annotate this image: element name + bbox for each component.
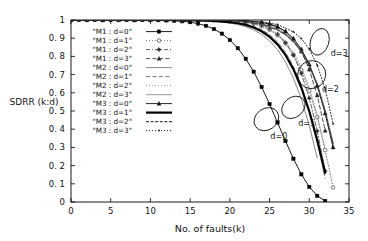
data-point-marker — [158, 130, 160, 132]
legend-label-7: "M2 : d=3" — [92, 90, 132, 99]
data-point-marker — [332, 123, 334, 125]
data-point-marker — [252, 70, 255, 73]
legend-label-8: "M3 : d=0" — [92, 99, 132, 108]
data-point-marker — [157, 39, 161, 43]
data-point-marker — [204, 24, 207, 27]
data-point-marker — [300, 173, 303, 176]
data-point-marker — [316, 64, 318, 66]
legend-label-3: "M1 : d=3" — [92, 54, 132, 63]
chart-figure: 0510152025303500. 10. 20. 30. 40. 50. 60… — [0, 0, 368, 241]
legend-label-6: "M2 : d=2" — [92, 81, 132, 90]
x-tick-label: 5 — [108, 206, 113, 216]
data-point-marker — [212, 27, 215, 30]
x-tick-label: 0 — [68, 206, 73, 216]
data-point-marker — [220, 32, 223, 35]
y-axis-label: SDRR (k:d) — [10, 97, 59, 107]
data-point-marker — [315, 93, 319, 97]
annotation-ellipse-d=3 — [307, 26, 333, 58]
y-tick-label: 0. 4 — [49, 124, 65, 134]
data-point-marker — [292, 31, 294, 33]
data-point-marker — [228, 38, 231, 41]
data-point-marker — [229, 19, 231, 21]
data-point-marker — [261, 21, 263, 23]
data-point-marker — [331, 186, 335, 190]
y-tick-label: 0. 8 — [49, 51, 65, 61]
data-point-marker — [323, 148, 327, 152]
x-tick-label: 15 — [185, 206, 196, 216]
y-tick-label: 0 — [60, 197, 65, 207]
y-tick-label: 0. 1 — [49, 179, 65, 189]
data-point-marker — [307, 96, 311, 100]
legend-label-0: "M1 : d=0" — [92, 27, 132, 36]
legend-label-9: "M3 : d=1" — [92, 108, 132, 117]
data-point-marker — [157, 30, 160, 33]
annotation-label-d=1: d=1 — [298, 119, 315, 128]
legend-label-2: "M1 : d=2" — [92, 45, 132, 54]
x-tick-label: 20 — [224, 206, 235, 216]
y-tick-label: 0. 5 — [49, 106, 65, 116]
legend-label-1: "M1 : d=1" — [92, 36, 132, 45]
data-point-marker — [323, 128, 327, 132]
y-tick-label: 0. 3 — [49, 142, 65, 152]
annotation-label-d=2: d=2 — [322, 85, 339, 94]
chart-canvas: 0510152025303500. 10. 20. 30. 40. 50. 60… — [0, 0, 368, 241]
data-point-marker — [277, 24, 279, 26]
legend-label-10: "M3 : d=2" — [92, 117, 132, 126]
legend-label-5: "M2 : d=1" — [92, 72, 132, 81]
data-point-marker — [315, 115, 319, 119]
data-point-marker — [197, 19, 199, 21]
annotation-ellipse-d=0 — [250, 103, 284, 136]
legend-label-11: "M3 : d=3" — [92, 126, 132, 135]
data-point-marker — [244, 57, 247, 60]
y-tick-label: 1 — [60, 15, 65, 25]
annotation-label-d=0: d=0 — [270, 132, 287, 141]
data-point-marker — [134, 19, 136, 21]
x-axis-label: No. of faults(k) — [175, 223, 245, 234]
x-tick-label: 35 — [344, 206, 355, 216]
legend-label-4: "M2 : d=0" — [92, 63, 132, 72]
y-tick-label: 0. 9 — [49, 33, 65, 43]
x-tick-label: 30 — [304, 206, 315, 216]
data-point-marker — [308, 185, 311, 188]
x-tick-label: 25 — [264, 206, 275, 216]
data-point-marker — [157, 48, 161, 52]
data-point-marker — [292, 157, 295, 160]
y-tick-label: 0. 7 — [49, 70, 65, 80]
data-point-marker — [300, 38, 302, 40]
data-point-marker — [260, 85, 263, 88]
legend: "M1 : d=0""M1 : d=1""M1 : d=2""M1 : d=3"… — [92, 27, 172, 135]
y-tick-label: 0. 2 — [49, 161, 65, 171]
x-tick-label: 10 — [145, 206, 156, 216]
data-point-marker — [70, 19, 72, 21]
data-point-marker — [196, 22, 199, 25]
data-point-marker — [268, 102, 271, 105]
data-point-marker — [331, 145, 335, 149]
annotation-label-d=3: d=3 — [331, 49, 348, 58]
data-point-marker — [316, 194, 319, 197]
data-point-marker — [236, 47, 239, 50]
data-point-marker — [165, 19, 167, 21]
data-point-marker — [102, 19, 104, 21]
